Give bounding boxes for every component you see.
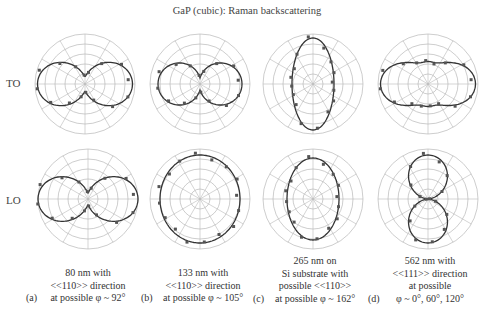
caption-b: 133 nm with <<110>> direction (b)at poss… [163,267,243,305]
caption-a: 80 nm with <<110>> direction (a)at possi… [48,267,128,305]
caption-d: 562 nm with <<111>> direction at possibl… [390,255,470,305]
caption-c: 265 nm on Si substrate with possible <<1… [275,255,355,305]
